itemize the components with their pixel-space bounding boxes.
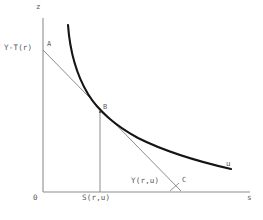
expenditure-diagram: z s 0 Y-T(r) A B C u S(r,u) Y(r,u) — [0, 0, 263, 220]
point-b-label: B — [103, 104, 107, 111]
indifference-curve — [68, 25, 231, 169]
diagram-canvas — [0, 0, 263, 220]
income-expression-label: Y(r,u) — [131, 177, 159, 185]
y-intercept-expression: Y-T(r) — [4, 44, 32, 52]
x-axis-label: s — [247, 194, 252, 202]
y-axis-label: z — [36, 3, 41, 11]
point-c-label: C — [182, 177, 186, 184]
indifference-curve-label: u — [226, 160, 231, 168]
tangency-point-marker — [99, 111, 101, 113]
origin-label: 0 — [33, 194, 38, 202]
x-tick-label-s: S(r,u) — [82, 194, 110, 202]
point-a-label: A — [47, 41, 51, 48]
